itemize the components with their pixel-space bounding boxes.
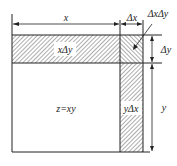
dimension-dy — [150, 36, 154, 62]
corner-dx-dy — [120, 35, 143, 63]
dimension-y — [150, 64, 154, 151]
label-dx: Δx — [126, 12, 138, 23]
label-y: y — [161, 102, 167, 113]
label-y-dx: yΔx — [123, 103, 139, 114]
label-x: x — [63, 12, 69, 23]
area-increment-diagram: x Δx ΔxΔy Δy y xΔy yΔx z=xy — [0, 0, 177, 166]
label-dy: Δy — [160, 44, 172, 55]
label-z-xy: z=xy — [55, 103, 76, 114]
label-dxdy: ΔxΔy — [147, 8, 169, 19]
label-x-dy: xΔy — [57, 44, 73, 55]
